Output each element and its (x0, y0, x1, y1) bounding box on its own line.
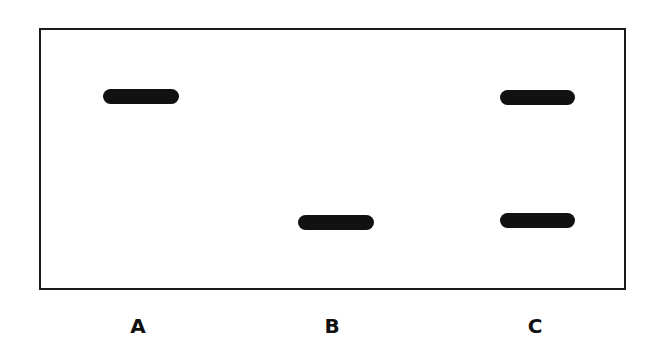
lane-label-a: A (118, 314, 158, 338)
lane-label-b: B (312, 314, 352, 338)
band-lane-b-lower (298, 215, 374, 230)
lane-label-c: C (515, 314, 555, 338)
band-lane-c-upper (500, 90, 575, 105)
band-lane-c-lower (500, 213, 575, 228)
band-lane-a-upper (103, 89, 179, 104)
gel-frame (39, 28, 626, 290)
